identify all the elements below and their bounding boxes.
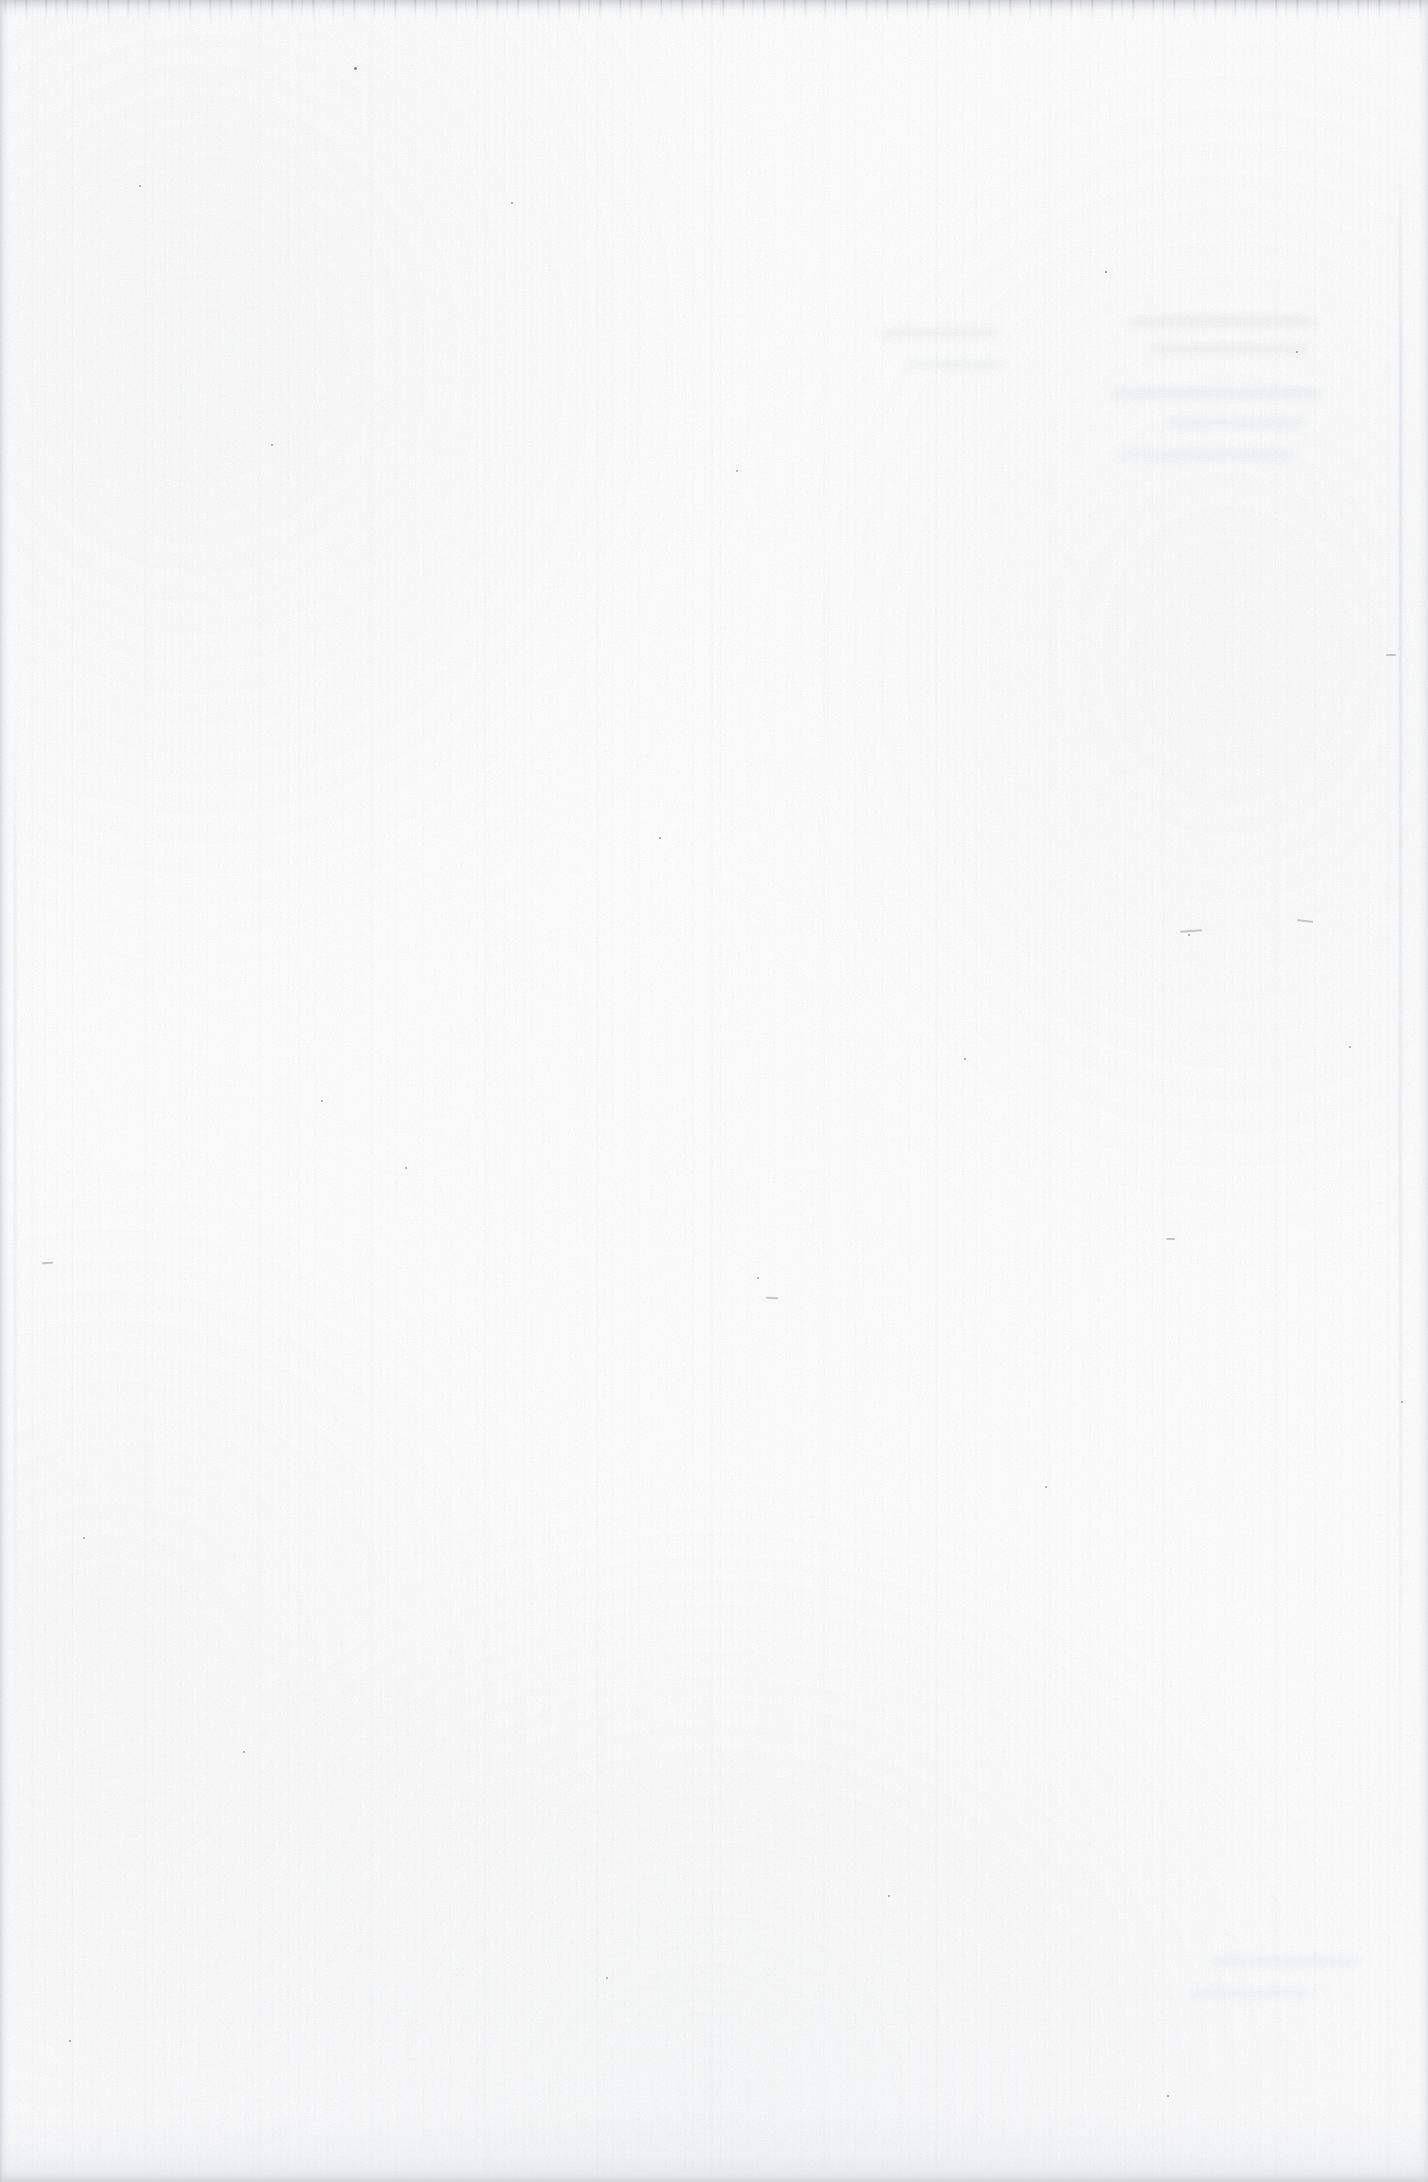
page-content-area (120, 150, 1308, 2012)
scanned-page (0, 0, 1428, 2182)
